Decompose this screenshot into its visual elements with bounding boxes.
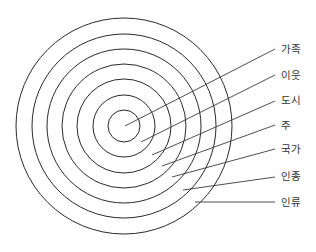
concentric-circles-diagram: [0, 0, 316, 252]
ring-1: [108, 110, 140, 142]
label-family: 가족: [281, 43, 301, 55]
label-state: 주: [281, 119, 291, 131]
leader-line-6: [183, 177, 275, 190]
ring-3: [77, 79, 171, 173]
leader-lines-group: [125, 49, 275, 202]
ring-2: [93, 95, 155, 157]
label-nation: 국가: [281, 143, 301, 155]
leader-line-5: [172, 149, 275, 177]
ring-4: [62, 64, 186, 188]
leader-line-4: [162, 125, 275, 166]
label-neighbor: 이웃: [281, 69, 301, 81]
label-race: 인종: [281, 170, 301, 182]
label-humanity: 인류: [281, 196, 301, 208]
label-city: 도시: [281, 94, 301, 106]
ring-6: [32, 34, 216, 218]
ring-5: [47, 49, 201, 203]
